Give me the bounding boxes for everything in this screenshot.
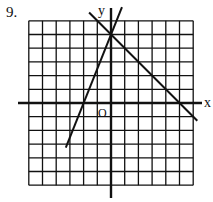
- y-axis-label: y: [98, 3, 105, 18]
- line-2: [89, 13, 197, 121]
- line-1: [66, 7, 122, 147]
- origin-label: O: [98, 106, 107, 120]
- x-axis-label: x: [204, 95, 211, 110]
- coordinate-plot: xyO: [0, 0, 213, 202]
